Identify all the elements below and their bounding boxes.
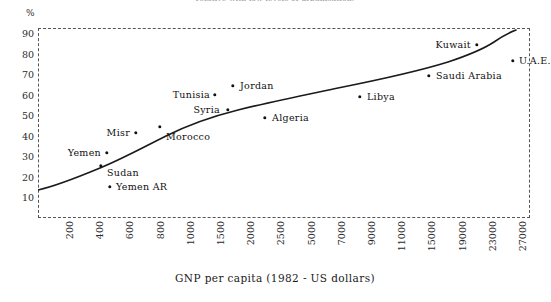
x-tick-label: 2500 bbox=[275, 221, 286, 245]
x-tick-label: 9000 bbox=[366, 221, 377, 245]
data-point-label: Kuwait bbox=[436, 40, 471, 50]
data-point-label: Saudi Arabia bbox=[436, 71, 502, 81]
x-tick-label: 23000 bbox=[487, 221, 498, 251]
x-tick-label: 200 bbox=[64, 221, 75, 239]
x-tick-label: 7000 bbox=[336, 221, 347, 245]
x-axis: 2004006008001000150020002500500070009000… bbox=[0, 221, 550, 271]
data-point-label: Morocco bbox=[166, 132, 210, 142]
data-point-label: Jordan bbox=[240, 81, 274, 91]
y-tick-label: 10 bbox=[6, 193, 34, 203]
y-tick-label: 90 bbox=[6, 29, 34, 39]
data-point-label: U.A.E. bbox=[519, 56, 551, 66]
y-tick-label: 50 bbox=[6, 111, 34, 121]
data-point-label: Syria bbox=[193, 105, 220, 115]
x-tick-label: 2000 bbox=[245, 221, 256, 245]
y-tick-label: 70 bbox=[6, 70, 34, 80]
x-tick-label: 800 bbox=[155, 221, 166, 239]
data-point-label: Yemen AR bbox=[116, 182, 167, 192]
x-tick-label: 400 bbox=[94, 221, 105, 239]
y-tick-label: 80 bbox=[6, 50, 34, 60]
data-point-label: Misr bbox=[107, 128, 130, 138]
figure-caption: relative with low levels of urbanisation… bbox=[0, 0, 550, 2]
y-tick-label: 30 bbox=[6, 152, 34, 162]
plot-area bbox=[38, 28, 530, 218]
data-point-label: Yemen bbox=[68, 148, 101, 158]
x-tick-label: 15000 bbox=[426, 221, 437, 251]
x-tick-label: 27000 bbox=[517, 221, 528, 251]
x-tick-label: 1500 bbox=[215, 221, 226, 245]
x-tick-label: 11000 bbox=[396, 221, 407, 251]
data-point-label: Algeria bbox=[272, 113, 309, 123]
x-axis-title: GNP per capita (1982 - US dollars) bbox=[0, 272, 550, 284]
y-tick-label: 60 bbox=[6, 91, 34, 101]
x-tick-label: 600 bbox=[124, 221, 135, 239]
x-tick-label: 19000 bbox=[457, 221, 468, 251]
data-point-label: Tunisia bbox=[173, 90, 210, 100]
x-tick-label: 5000 bbox=[306, 221, 317, 245]
y-tick-label: 20 bbox=[6, 173, 34, 183]
x-tick-label: 1000 bbox=[185, 221, 196, 245]
data-point-label: Sudan bbox=[107, 168, 139, 178]
trend-curve bbox=[38, 28, 530, 218]
data-point-label: Libya bbox=[367, 92, 395, 102]
y-tick-label: 40 bbox=[6, 132, 34, 142]
